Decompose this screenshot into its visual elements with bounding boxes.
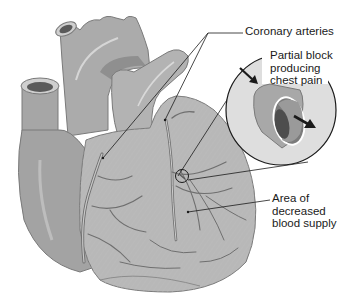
label-decreased-blood-supply: Area of decreased blood supply <box>272 192 337 230</box>
coronary-marker-dot-1 <box>102 157 104 159</box>
heart-diagram: Coronary arteries Partial block producin… <box>0 0 355 301</box>
heart-illustration <box>0 0 355 301</box>
label-partial-block: Partial block producing chest pain <box>270 49 333 87</box>
area-marker-dot <box>187 211 189 213</box>
superior-vena-cava <box>21 78 59 138</box>
coronary-marker-dot-2 <box>164 119 166 121</box>
label-coronary-arteries: Coronary arteries <box>245 25 334 38</box>
